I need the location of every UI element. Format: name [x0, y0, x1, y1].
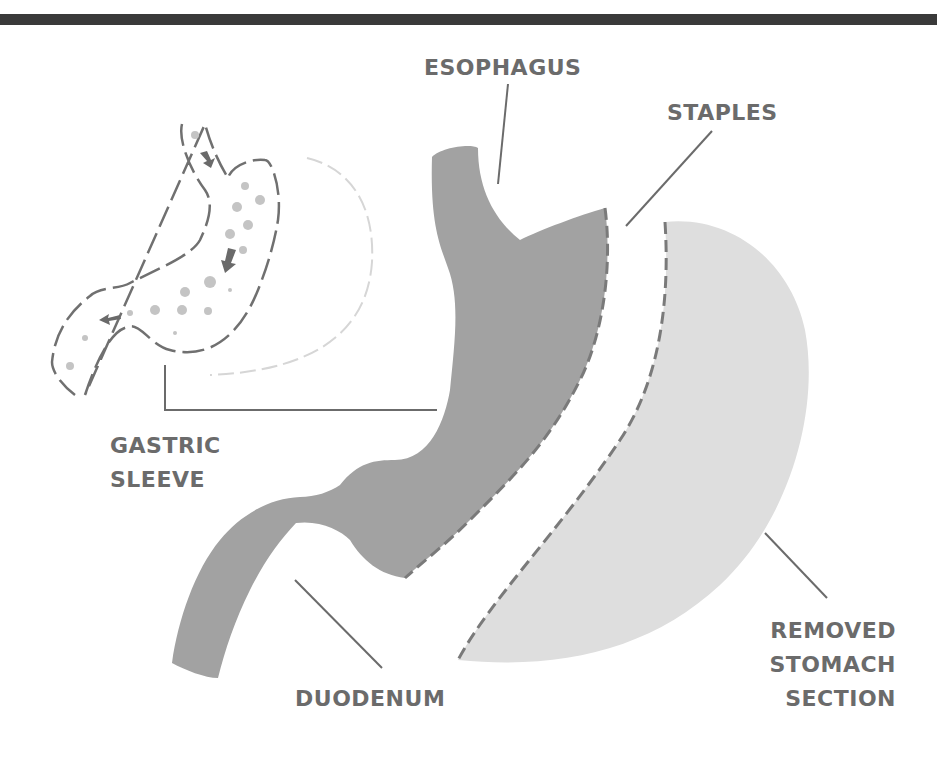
gastric-sleeve-diagram: ESOPHAGUS STAPLES GASTRIC SLEEVE DUODENU… [0, 0, 937, 761]
label-removed-line1: REMOVED [770, 618, 896, 643]
label-duodenum: DUODENUM [295, 686, 445, 711]
removed-section-leader [765, 533, 827, 598]
staples-leader [626, 131, 712, 226]
label-gastric-sleeve-line2: SLEEVE [110, 467, 205, 492]
esophagus-leader [498, 84, 508, 184]
label-gastric-sleeve-line1: GASTRIC [110, 433, 221, 458]
flow-arrows [99, 151, 236, 325]
inset-stomach-outline [52, 124, 372, 395]
gastric-sleeve-leader [165, 365, 437, 410]
label-removed-line3: SECTION [785, 686, 896, 711]
label-staples: STAPLES [667, 100, 778, 125]
duodenum-leader [295, 580, 382, 668]
label-removed-line2: STOMACH [769, 652, 896, 677]
label-esophagus: ESOPHAGUS [424, 55, 581, 80]
